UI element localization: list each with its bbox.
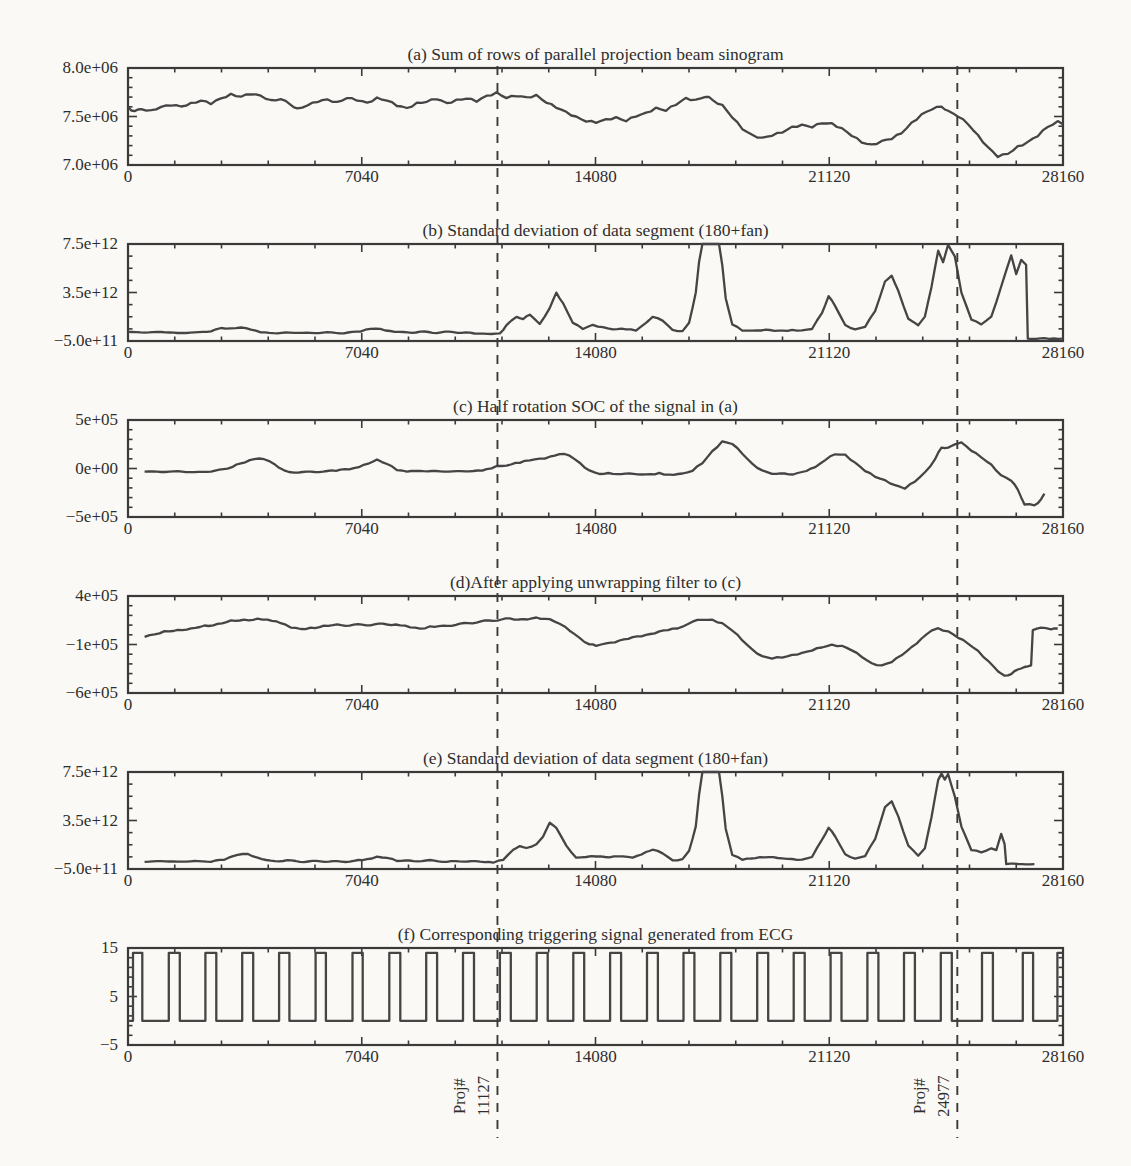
x-tick-label: 21120 [784,1047,874,1066]
x-tick-label: 7040 [317,695,407,714]
x-tick-label: 28160 [1018,695,1108,714]
x-tick-label: 14080 [551,695,641,714]
x-tick-label: 14080 [551,519,641,538]
trace-f [128,953,1063,1021]
y-tick-label: 5e+05 [0,410,118,430]
x-tick-label: 0 [83,1047,173,1066]
x-tick-label: 28160 [1018,871,1108,890]
x-tick-label: 14080 [551,1047,641,1066]
trace-d [145,618,1058,676]
x-tick-label: 14080 [551,167,641,186]
x-tick-label: 0 [83,343,173,362]
y-tick-label: 3.5e+12 [0,811,118,831]
y-tick-label: 0e+00 [0,459,118,479]
x-tick-label: 28160 [1018,167,1108,186]
y-tick-label: 15 [0,938,118,958]
x-tick-label: 21120 [784,167,874,186]
plot-e-title: (e) Standard deviation of data segment (… [128,748,1063,769]
x-tick-label: 7040 [317,343,407,362]
x-tick-label: 0 [83,519,173,538]
y-tick-label: −1e+05 [0,635,118,655]
x-tick-label: 28160 [1018,1047,1108,1066]
trace-b [128,244,1063,339]
sinogram-ecg-figure: (a) Sum of rows of parallel projection b… [0,0,1131,1166]
x-tick-label: 21120 [784,871,874,890]
x-tick-label: 14080 [551,343,641,362]
y-tick-label: 7.5e+12 [0,762,118,782]
plot-f-title: (f) Corresponding triggering signal gene… [128,924,1063,945]
marker-value-label: 11127 [475,1054,493,1138]
x-tick-label: 28160 [1018,343,1108,362]
x-tick-label: 21120 [784,343,874,362]
plot-a-title: (a) Sum of rows of parallel projection b… [128,44,1063,65]
marker-prefix-label: Proj# [451,1054,469,1138]
marker-prefix-label: Proj# [911,1054,929,1138]
x-tick-label: 7040 [317,519,407,538]
y-tick-label: 7.5e+06 [0,107,118,127]
x-tick-label: 0 [83,695,173,714]
x-tick-label: 0 [83,167,173,186]
x-tick-label: 7040 [317,871,407,890]
x-tick-label: 0 [83,871,173,890]
x-tick-label: 7040 [317,167,407,186]
y-tick-label: 5 [0,987,118,1007]
trace-a [128,92,1063,157]
x-tick-label: 21120 [784,519,874,538]
y-tick-label: 3.5e+12 [0,283,118,303]
y-tick-label: 7.5e+12 [0,234,118,254]
plot-c-title: (c) Half rotation SOC of the signal in (… [128,396,1063,417]
x-tick-label: 14080 [551,871,641,890]
trace-c [145,441,1045,505]
plot-d-title: (d)After applying unwrapping filter to (… [128,572,1063,593]
y-tick-label: 4e+05 [0,586,118,606]
trace-e [145,772,1035,864]
x-tick-label: 28160 [1018,519,1108,538]
marker-value-label: 24977 [935,1054,953,1138]
plot-b-title: (b) Standard deviation of data segment (… [128,220,1063,241]
y-tick-label: 8.0e+06 [0,58,118,78]
x-tick-label: 7040 [317,1047,407,1066]
x-tick-label: 21120 [784,695,874,714]
